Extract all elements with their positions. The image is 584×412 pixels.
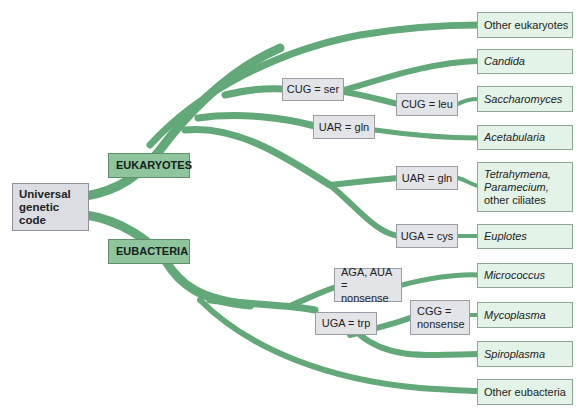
change-uar-gln-acetabularia: UAR = gln — [313, 115, 375, 139]
leaf-euplotes: Euplotes — [477, 224, 573, 249]
leaf-saccharomyces-label: Saccharomyces — [484, 93, 562, 106]
leaf-other-eubacteria: Other eubacteria — [477, 379, 573, 405]
leaf-other-eubacteria-label: Other eubacteria — [484, 386, 566, 399]
root-node-universal-genetic-code: Universal genetic code — [12, 183, 89, 231]
change-cug-leu-label: CUG = leu — [401, 98, 453, 111]
change-uar-gln-ciliates: UAR = gln — [396, 166, 458, 190]
leaf-spiroplasma-label: Spiroplasma — [484, 348, 545, 361]
change-cgg-line1: CGG = — [417, 305, 452, 318]
change-cug-leu: CUG = leu — [396, 93, 458, 116]
clade-eubacteria: EUBACTERIA — [108, 239, 190, 264]
leaf-other-ciliates-label: other ciliates — [484, 194, 546, 207]
leaf-spiroplasma: Spiroplasma — [477, 341, 573, 367]
change-uga-trp-label: UGA = trp — [322, 317, 371, 330]
leaf-other-eukaryotes: Other eukaryotes — [477, 12, 573, 38]
change-aga-aua-line2: nonsense — [341, 292, 389, 305]
change-cug-ser-label: CUG = ser — [287, 83, 339, 96]
leaf-mycoplasma-label: Mycoplasma — [484, 309, 546, 322]
root-label-line1: Universal — [19, 188, 71, 201]
leaf-candida: Candida — [477, 49, 573, 74]
change-uga-trp: UGA = trp — [315, 312, 377, 335]
change-cgg-line2: nonsense — [417, 318, 465, 331]
root-label-line2: genetic code — [19, 201, 88, 227]
change-uga-cys-label: UGA = cys — [401, 230, 453, 243]
leaf-saccharomyces: Saccharomyces — [477, 86, 573, 112]
leaf-mycoplasma: Mycoplasma — [477, 302, 573, 328]
leaf-other-eukaryotes-label: Other eukaryotes — [484, 19, 568, 32]
change-cug-ser: CUG = ser — [282, 78, 344, 101]
leaf-acetabularia: Acetabularia — [477, 125, 573, 150]
clade-eukaryotes: EUKARYOTES — [108, 153, 190, 178]
change-uar-gln-1-label: UAR = gln — [319, 121, 369, 134]
clade-eubacteria-label: EUBACTERIA — [116, 245, 188, 258]
leaf-tetrahymena-label: Tetrahymena, — [484, 168, 551, 181]
leaf-micrococcus: Micrococcus — [477, 263, 573, 288]
change-aga-aua-line1: AGA, AUA = — [341, 266, 401, 292]
leaf-paramecium-label: Paramecium, — [484, 181, 549, 194]
leaf-candida-label: Candida — [484, 55, 525, 68]
leaf-acetabularia-label: Acetabularia — [484, 131, 545, 144]
change-uga-cys: UGA = cys — [396, 224, 458, 248]
change-aga-aua-nonsense: AGA, AUA = nonsense — [334, 268, 402, 302]
leaf-ciliates: Tetrahymena, Paramecium, other ciliates — [477, 162, 573, 212]
clade-eukaryotes-label: EUKARYOTES — [116, 159, 192, 172]
change-cgg-nonsense: CGG = nonsense — [410, 300, 470, 335]
leaf-micrococcus-label: Micrococcus — [484, 269, 545, 282]
change-uar-gln-2-label: UAR = gln — [402, 172, 452, 185]
leaf-euplotes-label: Euplotes — [484, 230, 527, 243]
